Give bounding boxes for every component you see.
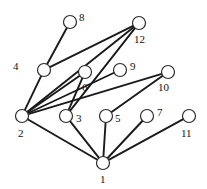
graph-node-6[interactable] (79, 66, 92, 79)
graph-diagram: 123456789101112 (0, 0, 207, 189)
graph-edge (109, 119, 184, 160)
graph-node-1[interactable] (97, 157, 110, 170)
graph-node-10[interactable] (162, 66, 175, 79)
graph-node-2[interactable] (16, 110, 29, 123)
node-label-3: 3 (76, 113, 82, 124)
node-label-11: 11 (181, 128, 192, 139)
graph-node-11[interactable] (183, 110, 196, 123)
node-label-7: 7 (157, 107, 163, 118)
node-label-12: 12 (134, 34, 145, 45)
graph-node-8[interactable] (64, 16, 77, 29)
graph-node-5[interactable] (100, 110, 113, 123)
graph-edge (47, 28, 67, 65)
graph-node-3[interactable] (60, 110, 73, 123)
graph-canvas (0, 0, 207, 189)
graph-edge (103, 122, 105, 156)
node-label-10: 10 (158, 82, 169, 93)
graph-node-4[interactable] (38, 64, 51, 77)
graph-edge (28, 119, 98, 159)
node-label-6: 6 (82, 82, 88, 93)
graph-edge (107, 121, 142, 159)
graph-node-9[interactable] (114, 64, 127, 77)
node-label-8: 8 (79, 12, 85, 23)
node-label-5: 5 (115, 113, 121, 124)
node-label-1: 1 (100, 174, 106, 185)
graph-node-12[interactable] (133, 17, 146, 30)
node-label-2: 2 (18, 128, 24, 139)
node-label-9: 9 (130, 61, 136, 72)
graph-node-7[interactable] (141, 110, 154, 123)
node-label-4: 4 (13, 61, 19, 72)
